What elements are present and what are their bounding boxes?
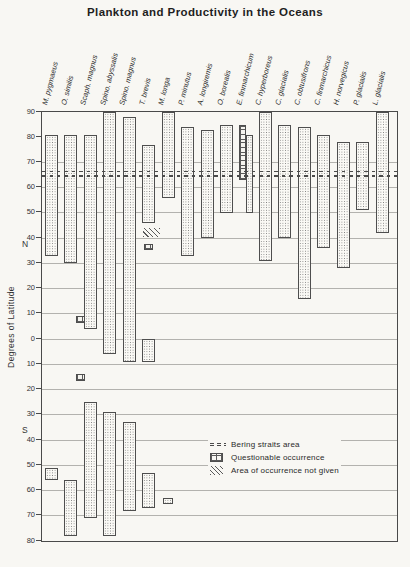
- axis-tick-label: 70: [17, 510, 35, 519]
- axis-tick-label: 50: [17, 207, 35, 216]
- species-label: Scaph. magnus: [79, 54, 100, 106]
- species-bar: [144, 244, 153, 249]
- species-bar: [84, 135, 97, 329]
- species-bar: [201, 130, 214, 239]
- species-bar: [376, 112, 389, 233]
- species-label: C. glacialis: [273, 69, 290, 106]
- crosshatch-box-icon: [210, 453, 226, 462]
- bering-straits-dash-line: [42, 171, 397, 172]
- axis-tick-label: 80: [17, 132, 35, 141]
- species-bar: [246, 135, 253, 213]
- legend-item-bering: Bering straits area: [210, 438, 339, 451]
- grid-line: [42, 339, 397, 340]
- species-bar: [337, 142, 350, 268]
- species-bar: [84, 402, 97, 518]
- axis-tick-label: 80: [17, 536, 35, 545]
- species-bar: [45, 468, 58, 481]
- species-bar: [76, 316, 85, 322]
- axis-tick: [36, 287, 41, 288]
- axis-tick-label: 60: [17, 182, 35, 191]
- axis-tick-label: 20: [17, 384, 35, 393]
- axis-tick-label: 0: [17, 334, 35, 343]
- species-bar: [278, 125, 291, 239]
- grid-line: [42, 389, 397, 390]
- diagonal-hatch-icon: [210, 466, 226, 475]
- axis-tick: [36, 111, 41, 112]
- species-label: A. longiremis: [195, 62, 214, 106]
- legend-label: Bering straits area: [231, 440, 300, 449]
- species-bar: [64, 135, 77, 264]
- species-label: Spino. magnus: [118, 56, 139, 106]
- species-label: E. finmarchicum: [234, 52, 256, 106]
- axis-tick: [36, 211, 41, 212]
- species-bar: [76, 374, 85, 380]
- axis-tick-label: 10: [17, 308, 35, 317]
- axis-tick: [36, 136, 41, 137]
- axis-tick: [36, 161, 41, 162]
- species-label: O. borealis: [215, 69, 232, 106]
- species-label: L. glacialis: [370, 70, 387, 106]
- axis-tick: [36, 388, 41, 389]
- chart-title: Plankton and Productivity in the Oceans: [0, 6, 410, 18]
- legend-label: Area of occurrence not given: [231, 466, 339, 475]
- species-bar: [45, 135, 58, 256]
- legend: Bering straits area Questionable occurre…: [208, 437, 341, 478]
- axis-tick: [36, 464, 41, 465]
- species-bar: [162, 112, 175, 198]
- species-bar: [142, 145, 155, 223]
- species-bar: [259, 112, 272, 261]
- species-bar: [103, 112, 116, 354]
- species-bar: [103, 412, 116, 536]
- axis-tick: [36, 237, 41, 238]
- axis-tick-label: 50: [17, 460, 35, 469]
- axis-tick: [36, 338, 41, 339]
- species-bar: [143, 228, 160, 237]
- bering-dashes-icon: [210, 441, 226, 448]
- species-bar: [142, 473, 155, 508]
- axis-tick-label: 60: [17, 485, 35, 494]
- axis-tick-label: 70: [17, 157, 35, 166]
- axis-tick-label: 30: [17, 258, 35, 267]
- species-label: H. norvegicus: [332, 60, 352, 106]
- species-label: C. hyperboreus: [254, 55, 275, 106]
- bering-straits-dash-line: [42, 175, 397, 176]
- axis-tick-label: 40: [17, 435, 35, 444]
- species-bar: [163, 498, 173, 504]
- species-label: P. minutus: [176, 71, 193, 106]
- species-bar: [142, 339, 155, 362]
- axis-tick: [36, 186, 41, 187]
- species-label: C. finmarchicus: [312, 54, 333, 106]
- south-hemisphere-label: S: [22, 425, 32, 435]
- y-axis-label: Degrees of Latitude: [6, 247, 16, 407]
- grid-line: [42, 364, 397, 365]
- axis-tick-label: 40: [17, 233, 35, 242]
- plankton-latitude-figure: Plankton and Productivity in the Oceans …: [0, 0, 410, 567]
- axis-tick: [36, 489, 41, 490]
- species-label: T. brevis: [137, 77, 152, 106]
- species-bar: [64, 480, 77, 536]
- legend-item-questionable: Questionable occurrence: [210, 451, 339, 464]
- species-bar: [123, 117, 136, 362]
- legend-label: Questionable occurrence: [231, 453, 325, 462]
- species-bar: [298, 127, 311, 299]
- axis-tick-label: 30: [17, 409, 35, 418]
- axis-tick: [36, 312, 41, 313]
- axis-tick-label: 10: [17, 359, 35, 368]
- legend-item-not-given: Area of occurrence not given: [210, 464, 339, 477]
- species-label: M. longa: [156, 76, 172, 106]
- axis-tick-label: 90: [17, 107, 35, 116]
- species-bar: [181, 127, 194, 256]
- axis-tick: [36, 439, 41, 440]
- species-bar: [317, 135, 330, 249]
- species-label: Spino. abyssalis: [98, 52, 120, 106]
- species-label: M. pygmaeus: [40, 61, 59, 106]
- species-bar: [220, 125, 233, 213]
- species-label: O. similis: [59, 75, 75, 106]
- axis-tick: [36, 262, 41, 263]
- axis-tick-label: 20: [17, 283, 35, 292]
- axis-tick: [36, 363, 41, 364]
- axis-tick: [36, 413, 41, 414]
- axis-tick: [36, 540, 41, 541]
- axis-tick: [36, 514, 41, 515]
- species-label: P. glacialis: [351, 70, 368, 106]
